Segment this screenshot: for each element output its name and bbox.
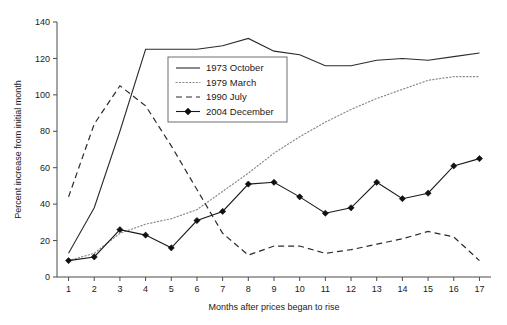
line-chart: 020406080100120140 123456789101112131415…: [0, 0, 507, 325]
y-axis-tick-label: 60: [40, 163, 50, 173]
x-axis-tick-label: 14: [397, 284, 407, 294]
x-axis-tick-label: 8: [246, 284, 251, 294]
x-axis-tick-label: 11: [321, 284, 330, 294]
series-2004-december: [65, 156, 482, 264]
x-axis-tick-label: 10: [295, 284, 305, 294]
x-axis-tick-label: 1: [66, 284, 71, 294]
y-axis-tick-label: 140: [35, 17, 50, 27]
y-axis-title: Percent increase from initial month: [13, 80, 23, 219]
y-axis-tick-label: 80: [40, 126, 50, 136]
x-axis-tick-label: 5: [169, 284, 174, 294]
data-point-marker: [476, 156, 482, 162]
x-axis-tick-label: 2: [92, 284, 97, 294]
x-axis-tick-label: 4: [143, 284, 148, 294]
x-axis-tick-label: 3: [117, 284, 122, 294]
series-line: [69, 159, 480, 261]
legend-label: 2004 December: [206, 106, 274, 117]
data-point-marker: [271, 179, 277, 185]
x-axis-tick-label: 17: [474, 284, 484, 294]
data-point-marker: [65, 258, 71, 264]
y-axis: 020406080100120140: [35, 17, 57, 282]
data-point-marker: [297, 194, 303, 200]
data-point-marker: [399, 196, 405, 202]
y-axis-tick-label: 120: [35, 54, 50, 64]
y-axis-tick-label: 0: [45, 272, 50, 282]
x-axis-tick-label: 7: [220, 284, 225, 294]
x-axis-tick-label: 6: [194, 284, 199, 294]
legend-label: 1973 October: [206, 62, 264, 73]
chart-container: 020406080100120140 123456789101112131415…: [0, 0, 507, 325]
x-axis-tick-label: 12: [346, 284, 356, 294]
x-axis-tick-label: 9: [271, 284, 276, 294]
x-axis-tick-label: 15: [423, 284, 433, 294]
y-axis-tick-label: 100: [35, 90, 50, 100]
y-axis-tick-label: 40: [40, 199, 50, 209]
x-axis: 1234567891011121314151617: [57, 277, 491, 294]
legend-label: 1979 March: [206, 77, 256, 88]
legend-label: 1990 July: [206, 91, 247, 102]
data-point-marker: [142, 232, 148, 238]
chart-legend: 1973 October1979 March1990 July2004 Dece…: [168, 57, 287, 122]
x-axis-tick-label: 13: [372, 284, 382, 294]
x-axis-tick-label: 16: [449, 284, 459, 294]
x-axis-title: Months after prices began to rise: [208, 302, 339, 312]
data-point-marker: [322, 210, 328, 216]
y-axis-tick-label: 20: [40, 236, 50, 246]
